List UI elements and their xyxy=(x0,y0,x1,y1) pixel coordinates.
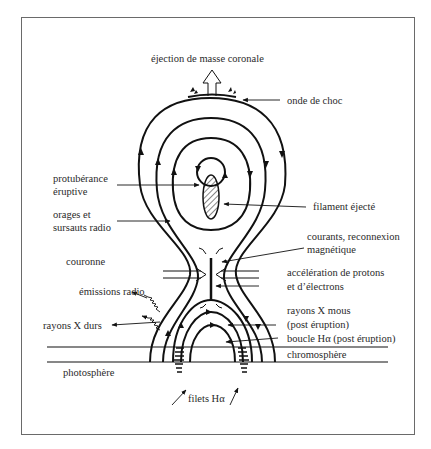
label-hard-x: rayons X durs xyxy=(43,319,102,333)
label-radio: émissions radio xyxy=(79,285,145,299)
cme-arrow xyxy=(203,70,221,96)
label-photosphere: photosphère xyxy=(63,366,114,380)
label-prominence-2: éruptive xyxy=(53,185,87,199)
label-acceleration-2: et d’électrons xyxy=(287,280,344,294)
label-storms-2: sursauts radio xyxy=(53,221,111,235)
label-corona: couronne xyxy=(66,255,105,269)
label-acceleration-1: accélération de protons xyxy=(287,266,384,280)
field-lines-outer xyxy=(139,98,286,362)
label-filament: filament éjecté xyxy=(313,200,375,214)
halpha-ribbons xyxy=(174,348,249,372)
label-soft-x-2: (post éruption) xyxy=(287,318,349,332)
label-prominence-1: protubérance xyxy=(53,172,108,186)
label-shock: onde de choc xyxy=(287,94,342,108)
label-storms-1: orages et xyxy=(53,208,91,222)
label-chromosphere: chromosphère xyxy=(287,348,346,362)
ejected-filament xyxy=(203,175,219,219)
label-halpha-ribbons: filets Hα xyxy=(188,392,225,406)
label-currents-2: magnétique xyxy=(307,243,356,257)
label-halpha-loop: boucle Hα (post éruption) xyxy=(287,332,395,346)
label-cme: éjection de masse coronale xyxy=(151,52,264,66)
label-soft-x-1: rayons X mous xyxy=(287,304,351,318)
label-currents-1: courants, reconnexion xyxy=(307,230,400,244)
